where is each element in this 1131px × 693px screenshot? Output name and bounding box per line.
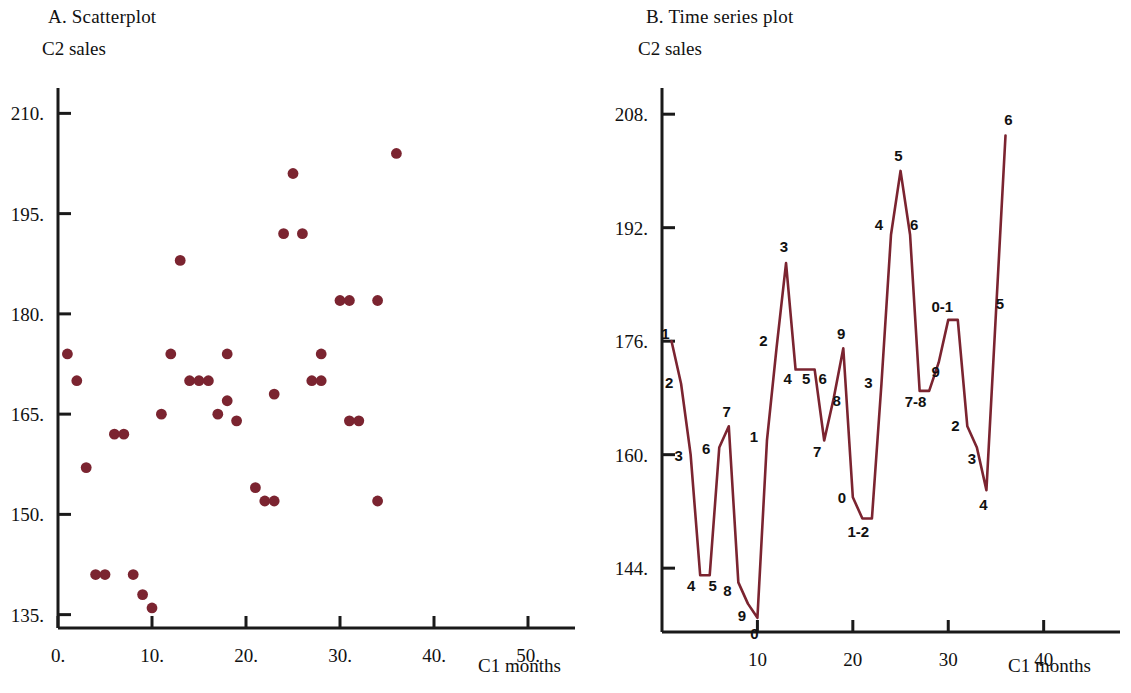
y-tick-label: 150. <box>11 504 44 525</box>
y-tick-label: 160. <box>615 445 648 466</box>
series-point-label: 9 <box>738 607 746 624</box>
y-tick-label: 210. <box>11 103 44 124</box>
series-point-label: 6 <box>702 440 710 457</box>
series-point-label: 6 <box>818 370 826 387</box>
scatter-point <box>203 375 214 386</box>
x-tick-label: 10. <box>140 645 164 666</box>
scatter-point <box>306 375 317 386</box>
series-point-label: 3 <box>674 447 682 464</box>
scatter-point <box>278 228 289 239</box>
scatter-point <box>62 349 73 360</box>
y-tick-label: 208. <box>615 104 648 125</box>
scatter-point <box>353 415 364 426</box>
series-point-label: 6 <box>1004 111 1012 128</box>
scatter-point <box>194 375 205 386</box>
series-point-label: 2 <box>759 332 767 349</box>
scatter-point <box>316 375 327 386</box>
scatter-point <box>250 482 261 493</box>
scatter-point <box>288 168 299 179</box>
series-point-label: 1 <box>750 428 758 445</box>
y-tick-label: 165. <box>11 404 44 425</box>
series-point-label: 4 <box>875 216 884 233</box>
series-point-label: 7 <box>723 403 731 420</box>
series-point-label: 5 <box>894 147 902 164</box>
series-point-label: 7-8 <box>905 393 927 410</box>
scatter-point <box>259 496 270 507</box>
series-point-label: 8 <box>723 582 731 599</box>
x-tick-label: 10 <box>748 649 767 670</box>
scatter-point <box>297 228 308 239</box>
scatter-point <box>269 389 280 400</box>
scatter-point <box>118 429 129 440</box>
scatter-point <box>344 415 355 426</box>
series-point-label: 0 <box>750 625 758 642</box>
scatter-point <box>335 295 346 306</box>
series-point-label: 1 <box>661 325 669 342</box>
scatter-point <box>372 496 383 507</box>
scatter-point <box>165 349 176 360</box>
series-point-label: 3 <box>864 374 872 391</box>
time-series-line <box>672 135 1006 617</box>
panel-time-series: B. Time series plot C2 sales C1 months 1… <box>600 0 1131 693</box>
series-point-label: 1-2 <box>848 523 870 540</box>
scatter-point <box>231 415 242 426</box>
series-point-label: 3 <box>968 450 976 467</box>
series-point-label: 2 <box>665 374 673 391</box>
series-point-label: 9 <box>932 363 940 380</box>
series-point-label: 6 <box>910 216 918 233</box>
x-tick-label: 0. <box>51 645 65 666</box>
scatter-point <box>100 569 111 580</box>
series-point-label: 0 <box>838 489 846 506</box>
scatter-point <box>212 409 223 420</box>
scatter-point <box>71 375 82 386</box>
y-tick-label: 195. <box>11 204 44 225</box>
series-point-label: 9 <box>837 325 845 342</box>
scatter-point <box>90 569 101 580</box>
scatter-point <box>222 395 233 406</box>
scatter-point <box>316 349 327 360</box>
scatter-point <box>175 255 186 266</box>
figure-page: A. Scatterplot C2 sales C1 months 135.15… <box>0 0 1131 693</box>
x-tick-label: 20. <box>234 645 258 666</box>
y-tick-label: 180. <box>11 304 44 325</box>
series-point-label: 5 <box>996 295 1004 312</box>
panel-scatterplot: A. Scatterplot C2 sales C1 months 135.15… <box>0 0 600 693</box>
y-tick-label: 176. <box>615 331 648 352</box>
series-point-label: 7 <box>813 443 821 460</box>
scatter-point <box>128 569 139 580</box>
scatter-point <box>372 295 383 306</box>
time-series-svg: 144.160.176.192.208.10203040123456789012… <box>600 0 1131 693</box>
x-tick-label: 20 <box>843 649 862 670</box>
x-tick-label: 40 <box>1034 649 1053 670</box>
scatter-point <box>184 375 195 386</box>
y-tick-label: 135. <box>11 605 44 626</box>
y-tick-label: 144. <box>615 558 648 579</box>
series-point-label: 4 <box>687 577 696 594</box>
series-point-label: 3 <box>780 238 788 255</box>
x-tick-label: 30 <box>939 649 958 670</box>
series-point-label: 5 <box>709 577 717 594</box>
scatter-point <box>109 429 120 440</box>
x-tick-label: 40. <box>422 645 446 666</box>
scatter-point <box>147 603 158 614</box>
series-point-label: 0-1 <box>931 298 953 315</box>
series-point-label: 4 <box>783 370 792 387</box>
scatter-point <box>137 589 148 600</box>
scatter-point <box>81 462 92 473</box>
y-tick-label: 192. <box>615 218 648 239</box>
series-point-label: 5 <box>802 370 810 387</box>
x-tick-label: 50. <box>516 645 540 666</box>
scatter-point <box>156 409 167 420</box>
x-tick-label: 30. <box>328 645 352 666</box>
scatterplot-svg: 135.150.165.180.195.210.0.10.20.30.40.50… <box>0 0 600 693</box>
scatter-point <box>222 349 233 360</box>
series-point-label: 2 <box>951 417 959 434</box>
scatter-point <box>269 496 280 507</box>
scatter-point <box>391 148 402 159</box>
series-point-label: 4 <box>979 496 988 513</box>
scatter-point <box>344 295 355 306</box>
series-point-label: 8 <box>833 392 841 409</box>
